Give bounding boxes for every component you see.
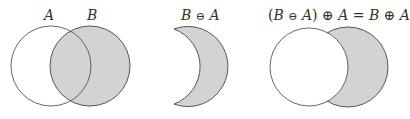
label-a: A xyxy=(400,7,410,23)
circled-minus-operator: ⊖ xyxy=(288,10,297,23)
circled-plus-operator: ⊕ xyxy=(322,7,334,23)
panel-2-crescent xyxy=(174,27,228,107)
label-equation: (B ⊖ A) ⊕ A = B ⊕ A xyxy=(268,8,410,24)
label-b-minus-a: B ⊖ A xyxy=(181,8,220,24)
crescent-b-minus-a xyxy=(174,27,228,107)
circled-plus-operator: ⊕ xyxy=(384,7,396,23)
label-a: A xyxy=(338,7,348,23)
panel-3-union xyxy=(270,27,388,107)
circle-b xyxy=(50,26,130,106)
label-b: B xyxy=(369,7,379,23)
label-a: A xyxy=(302,7,312,23)
panel-1-venn xyxy=(11,26,130,106)
close-paren: ) xyxy=(312,7,317,23)
label-b: B xyxy=(273,7,283,23)
equals-sign: = xyxy=(353,7,365,23)
circled-minus-operator: ⊖ xyxy=(196,10,205,23)
label-a: A xyxy=(209,7,219,23)
label-b: B xyxy=(181,7,191,23)
circle-a-white xyxy=(270,28,348,106)
label-b: B xyxy=(87,8,97,22)
label-a: A xyxy=(44,8,54,22)
